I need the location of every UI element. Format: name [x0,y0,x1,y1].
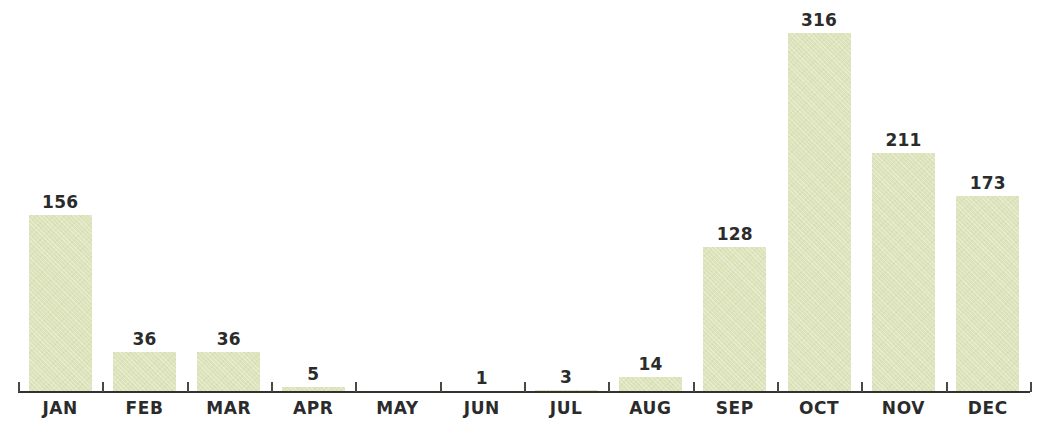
bar-slot-aug: 14 [608,8,692,393]
x-axis-category-labels: JAN FEB MAR APR MAY JUN JUL AUG SEP OCT … [18,398,1030,418]
x-tick-label-oct: OCT [777,398,861,418]
x-axis-tick [524,382,526,392]
x-tick-label-dec: DEC [946,398,1030,418]
x-axis-tick [1030,382,1032,392]
bar-slot-sep: 128 [693,8,777,393]
x-tick-label-mar: MAR [187,398,271,418]
bar-value-label: 5 [307,366,319,383]
bar-value-label: 156 [42,194,78,211]
bar-slot-oct: 316 [777,8,861,393]
x-axis-ticks [18,382,1030,392]
x-axis-tick [355,382,357,392]
bar-slot-dec: 173 [946,8,1030,393]
plot-area: 156 36 36 5 [18,8,1030,393]
x-tick-label-feb: FEB [102,398,186,418]
bar-slot-mar: 36 [187,8,271,393]
x-tick-label-sep: SEP [693,398,777,418]
bar-slot-may [355,8,439,393]
bar-series: 156 36 36 5 [18,8,1030,393]
bar-sep[interactable] [703,247,766,393]
x-tick-label-nov: NOV [861,398,945,418]
x-axis-tick [187,382,189,392]
x-axis-tick [946,382,948,392]
bar-value-label: 36 [132,331,156,348]
x-tick-label-apr: APR [271,398,355,418]
bar-slot-jan: 156 [18,8,102,393]
bar-nov[interactable] [872,153,935,393]
bar-jan[interactable] [29,215,92,393]
x-axis-tick [608,382,610,392]
bar-value-label: 128 [717,226,753,243]
bar-slot-nov: 211 [861,8,945,393]
bar-slot-jun: 1 [440,8,524,393]
x-axis-tick [440,382,442,392]
x-tick-label-jan: JAN [18,398,102,418]
x-axis-tick [861,382,863,392]
bar-slot-feb: 36 [102,8,186,393]
bar-value-label: 211 [885,132,921,149]
x-axis-tick [18,382,20,392]
bar-chart: 156 36 36 5 [0,0,1040,442]
bar-value-label: 36 [217,331,241,348]
x-axis-tick [271,382,273,392]
bar-dec[interactable] [956,196,1019,393]
bar-value-label: 14 [638,356,662,373]
x-tick-label-jul: JUL [524,398,608,418]
bar-value-label: 316 [801,12,837,29]
bar-value-label: 173 [970,175,1006,192]
x-axis-tick [777,382,779,392]
bar-slot-apr: 5 [271,8,355,393]
x-tick-label-may: MAY [355,398,439,418]
x-tick-label-jun: JUN [440,398,524,418]
x-axis-tick [693,382,695,392]
bar-slot-jul: 3 [524,8,608,393]
x-tick-label-aug: AUG [608,398,692,418]
bar-oct[interactable] [788,33,851,393]
x-axis-tick [102,382,104,392]
